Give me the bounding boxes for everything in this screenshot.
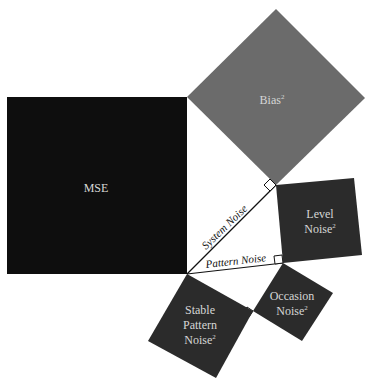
- pythagorean-noise-diagram: MSE Bias2 System Noise Pattern Noise Lev…: [0, 0, 373, 386]
- level-noise-label: Level: [306, 207, 334, 221]
- mse-label: MSE: [84, 181, 109, 195]
- occasion-noise-label: Occasion: [270, 289, 315, 303]
- right-angle-marker-level: [274, 255, 283, 264]
- stable-pattern-noise-label-2: Pattern: [183, 318, 217, 332]
- stable-pattern-noise-label-3: Noise2: [184, 333, 216, 347]
- system-noise-label: System Noise: [199, 202, 249, 251]
- pattern-noise-label: Pattern Noise: [204, 251, 267, 270]
- stable-pattern-noise-label: Stable: [185, 303, 215, 317]
- level-noise-label-2: Noise2: [304, 222, 336, 236]
- occasion-noise-label-2: Noise2: [276, 304, 308, 318]
